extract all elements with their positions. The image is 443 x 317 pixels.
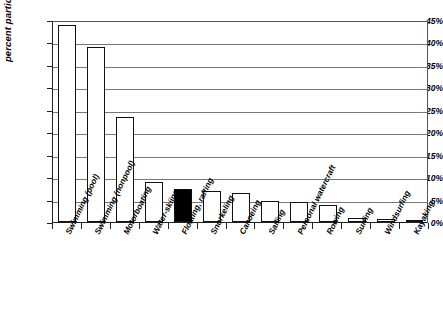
- x-tick-mark: [283, 223, 284, 229]
- x-tick-mark: [81, 223, 82, 229]
- x-tick-mark: [168, 223, 169, 229]
- x-tick-mark: [312, 223, 313, 229]
- x-tick-mark: [341, 223, 342, 229]
- bar-chart: percent participating 0%5%10%15%20%25%30…: [0, 0, 443, 317]
- y-axis-title: percent participating: [2, 0, 16, 74]
- x-tick-mark: [399, 223, 400, 229]
- x-tick-mark: [110, 223, 111, 229]
- x-tick-mark: [428, 223, 429, 229]
- x-tick-mark: [139, 223, 140, 229]
- bar: [58, 25, 76, 223]
- x-tick-mark: [197, 223, 198, 229]
- x-tick-mark: [254, 223, 255, 229]
- x-tick-mark: [370, 223, 371, 229]
- bars-layer: [53, 22, 427, 222]
- plot-area: [52, 21, 428, 223]
- x-tick-mark: [52, 223, 53, 229]
- x-tick-mark: [226, 223, 227, 229]
